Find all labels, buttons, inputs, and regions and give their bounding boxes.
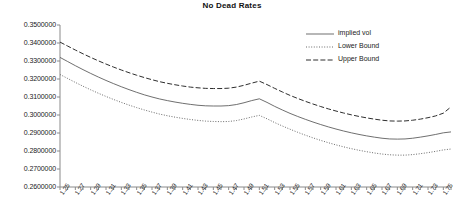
chart-container: No Dead Rates 0.35000000.34000000.330000… — [0, 0, 464, 220]
data-series-group — [60, 42, 451, 155]
y-tick-label: 0.3000000 — [2, 111, 56, 118]
y-tick-label: 0.2800000 — [2, 147, 56, 154]
y-tick-label: 0.3500000 — [2, 21, 56, 28]
series-line-1 — [60, 75, 451, 156]
y-tick-label: 0.3200000 — [2, 75, 56, 82]
y-tick-label: 0.2600000 — [2, 183, 56, 190]
y-tick-label: 0.3400000 — [2, 39, 56, 46]
series-line-0 — [60, 57, 451, 139]
y-tick-label: 0.2900000 — [2, 129, 56, 136]
y-tick-label: 0.2700000 — [2, 165, 56, 172]
legend-label-0: implied vol — [338, 29, 371, 36]
legend-label-2: Upper Bound — [338, 55, 379, 62]
axis-ticks — [57, 25, 451, 190]
legend-swatches — [306, 34, 334, 60]
axes — [60, 25, 451, 187]
legend-label-1: Lower Bound — [338, 42, 379, 49]
series-line-2 — [60, 42, 451, 121]
y-tick-label: 0.3300000 — [2, 57, 56, 64]
y-tick-label: 0.3100000 — [2, 93, 56, 100]
